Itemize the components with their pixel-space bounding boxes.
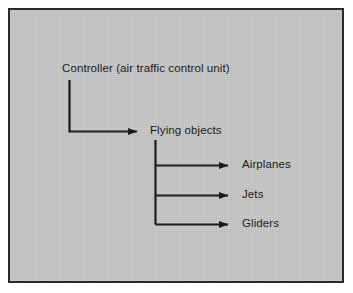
node-label-gliders: Gliders: [242, 217, 279, 230]
node-label-airplanes: Airplanes: [242, 158, 291, 171]
node-label-controller: Controller (air traffic control unit): [62, 62, 230, 75]
node-label-flying-objects: Flying objects: [150, 124, 222, 137]
connector-controller-to-flying-objects: [70, 80, 138, 132]
diagram-connectors: [0, 0, 353, 293]
diagram-figure: Controller (air traffic control unit) Fl…: [0, 0, 353, 293]
node-label-jets: Jets: [242, 188, 264, 201]
